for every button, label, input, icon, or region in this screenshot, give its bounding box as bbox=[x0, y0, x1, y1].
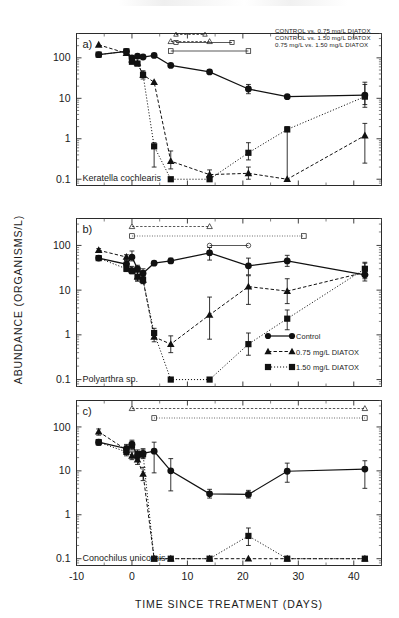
data-point-circle bbox=[284, 93, 291, 100]
significance-bar bbox=[152, 416, 367, 421]
species-label: Keratella cochlearis bbox=[83, 173, 162, 183]
data-point-circle bbox=[140, 54, 147, 61]
data-point-square bbox=[168, 176, 174, 182]
data-point-circle bbox=[289, 333, 295, 339]
data-point-triangle bbox=[150, 78, 158, 85]
sig-marker-triangle bbox=[362, 406, 368, 411]
sig-marker-triangle bbox=[207, 224, 213, 229]
species-label: Polyarthra sp. bbox=[83, 374, 139, 384]
species-label: Conochilus unicornis bbox=[83, 553, 167, 563]
data-point-square bbox=[284, 126, 290, 132]
data-point-square bbox=[134, 274, 140, 280]
data-point-triangle bbox=[206, 311, 214, 318]
data-point-square bbox=[96, 52, 102, 58]
data-point-square bbox=[123, 48, 129, 54]
data-point-circle bbox=[245, 86, 252, 93]
data-point-circle bbox=[206, 68, 213, 75]
y-tick-label: 100 bbox=[53, 421, 71, 433]
data-point-triangle bbox=[95, 41, 103, 48]
y-tick-label: 1 bbox=[65, 508, 71, 520]
y-tick-label: 100 bbox=[53, 239, 71, 251]
x-axis-title: TIME SINCE TREATMENT (DAYS) bbox=[135, 598, 323, 610]
data-point-circle bbox=[361, 466, 368, 473]
data-point-circle bbox=[245, 262, 252, 269]
data-point-square bbox=[362, 266, 368, 272]
y-tick-label: 100 bbox=[53, 51, 71, 63]
data-point-square bbox=[168, 556, 174, 562]
data-point-triangle bbox=[245, 169, 253, 176]
data-point-square bbox=[206, 556, 212, 562]
scan-artifact bbox=[118, 0, 348, 6]
data-point-square bbox=[284, 316, 290, 322]
y-tick-label: 0.1 bbox=[56, 173, 71, 185]
data-point-square bbox=[123, 449, 129, 455]
data-point-circle bbox=[284, 468, 291, 475]
panel-c: 0.1110100c)Conochilus unicornis bbox=[53, 401, 382, 566]
data-point-circle bbox=[167, 467, 174, 474]
data-point-circle bbox=[151, 260, 158, 267]
data-point-square bbox=[134, 61, 140, 67]
data-point-triangle bbox=[245, 283, 253, 290]
panel-label: b) bbox=[83, 223, 93, 235]
x-tick-label: 40 bbox=[348, 570, 360, 582]
data-point-square bbox=[362, 556, 368, 562]
x-tick-label: 30 bbox=[292, 570, 304, 582]
x-tick-label: 20 bbox=[237, 570, 249, 582]
data-point-square bbox=[206, 176, 212, 182]
series-1-50-mg-l-diatox bbox=[96, 48, 368, 182]
x-tick-label: 10 bbox=[182, 570, 194, 582]
significance-bar bbox=[168, 49, 250, 54]
data-point-square bbox=[206, 376, 212, 382]
data-point-triangle bbox=[245, 555, 253, 562]
data-point-square bbox=[96, 439, 102, 445]
panel-frame bbox=[77, 34, 382, 186]
significance-legend-line: CONTROL vs. 0.75 mg/L DIATOX bbox=[275, 27, 371, 34]
sig-marker-triangle bbox=[129, 406, 135, 411]
data-point-square bbox=[245, 341, 251, 347]
significance-legend-line: CONTROL vs. 1.50 mg/L DIATOX bbox=[275, 34, 371, 41]
data-point-circle bbox=[167, 258, 174, 265]
y-tick-label: 0.1 bbox=[56, 373, 71, 385]
data-point-square bbox=[289, 364, 295, 370]
data-point-square bbox=[129, 59, 135, 65]
y-tick-label: 0.1 bbox=[56, 552, 71, 564]
data-point-circle bbox=[265, 333, 271, 339]
significance-legend: CONTROL vs. 0.75 mg/L DIATOXCONTROL vs. … bbox=[275, 27, 371, 49]
multi-panel-chart: 0.1110100a)Keratella cochlearis0.1110100… bbox=[0, 0, 399, 618]
significance-legend-line: 0.75 mg/L vs. 1.50 mg/L DIATOX bbox=[275, 41, 368, 48]
data-point-square bbox=[265, 364, 271, 370]
y-axis-title: ABUNDANCE (ORGANISMS/L) bbox=[12, 215, 24, 384]
data-point-square bbox=[151, 143, 157, 149]
data-point-circle bbox=[151, 52, 158, 59]
legend-label: 0.75 mg/L DIATOX bbox=[296, 348, 359, 357]
data-point-circle bbox=[206, 250, 213, 257]
data-point-square bbox=[245, 533, 251, 539]
x-tick-label: -10 bbox=[69, 570, 84, 582]
data-point-square bbox=[129, 442, 135, 448]
significance-bar bbox=[129, 224, 212, 229]
y-tick-label: 10 bbox=[59, 284, 71, 296]
data-point-circle bbox=[245, 491, 252, 498]
data-point-square bbox=[151, 330, 157, 336]
x-tick-label: 0 bbox=[129, 570, 135, 582]
series-0-75-mg-l-diatox bbox=[95, 246, 369, 352]
panel-label: a) bbox=[83, 38, 93, 50]
panel-frame bbox=[77, 401, 382, 566]
data-point-square bbox=[168, 376, 174, 382]
data-point-square bbox=[140, 277, 146, 283]
data-point-triangle bbox=[288, 348, 295, 354]
data-point-circle bbox=[167, 62, 174, 69]
data-point-square bbox=[129, 268, 135, 274]
y-tick-label: 10 bbox=[59, 464, 71, 476]
data-point-triangle bbox=[264, 348, 271, 354]
series-line bbox=[99, 432, 365, 559]
data-point-circle bbox=[206, 490, 213, 497]
series-control bbox=[95, 439, 368, 498]
data-point-square bbox=[123, 266, 129, 272]
data-point-triangle bbox=[95, 246, 103, 253]
significance-bar bbox=[130, 234, 307, 239]
data-point-triangle bbox=[95, 428, 103, 435]
sig-marker-triangle bbox=[129, 224, 135, 229]
panel-b: 0.1110100b)Polyarthra sp. bbox=[53, 219, 382, 387]
data-point-triangle bbox=[167, 340, 175, 347]
